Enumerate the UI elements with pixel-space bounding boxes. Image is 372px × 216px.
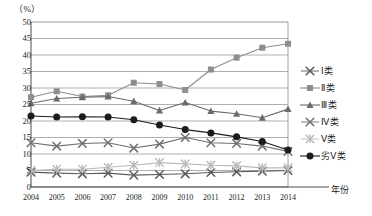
legend-label: Ⅰ类 [321,64,333,77]
legend-item-3[interactable]: Ⅲ类 [299,96,371,113]
legend-marker-x-cross-icon [299,65,321,77]
line-chart: （%） 50454035302520151050 200420052006200… [0,0,372,216]
legend-marker-triangle-icon [299,99,321,111]
legend-marker-square-icon [299,82,321,94]
x-axis-tick: 2014 [273,194,303,202]
chart-legend: Ⅰ类Ⅱ类Ⅲ类Ⅳ类Ⅴ类劣Ⅴ类 [299,62,371,164]
legend-label: Ⅴ类 [321,132,337,145]
legend-item-6[interactable]: 劣Ⅴ类 [299,147,371,164]
legend-item-5[interactable]: Ⅴ类 [299,130,371,147]
legend-label: 劣Ⅴ类 [321,149,346,162]
legend-item-4[interactable]: Ⅳ类 [299,113,371,130]
legend-item-2[interactable]: Ⅱ类 [299,79,371,96]
legend-marker-asterisk-icon [299,133,321,145]
x-axis-title: 年份 [331,183,349,196]
marker-square [307,85,313,91]
marker-circle [307,152,314,159]
legend-label: Ⅲ类 [321,98,337,111]
legend-label: Ⅳ类 [321,115,339,128]
legend-label: Ⅱ类 [321,81,335,94]
legend-item-1[interactable]: Ⅰ类 [299,62,371,79]
legend-marker-circle-icon [299,150,321,162]
legend-marker-x-cross-icon [299,116,321,128]
